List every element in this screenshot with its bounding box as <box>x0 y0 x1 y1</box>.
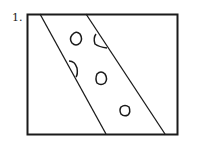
blob-2 <box>96 72 107 85</box>
blob-3 <box>120 106 130 116</box>
blob-1 <box>71 32 82 45</box>
diagram-figure <box>0 0 198 153</box>
band-left-edge <box>40 14 106 134</box>
